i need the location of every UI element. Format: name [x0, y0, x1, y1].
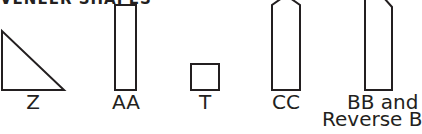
- label-bb-line2: Reverse B: [322, 110, 422, 129]
- label-t: T: [195, 93, 215, 112]
- label-aa: AA: [108, 93, 144, 112]
- label-z: Z: [23, 93, 43, 112]
- shape-t-square: [191, 64, 219, 90]
- label-cc: CC: [266, 93, 306, 112]
- shape-cc-pointed: [272, 0, 300, 90]
- shape-z-triangle: [2, 31, 64, 90]
- shape-aa-rectangle: [115, 5, 136, 90]
- shape-bb-beveled: [365, 0, 392, 90]
